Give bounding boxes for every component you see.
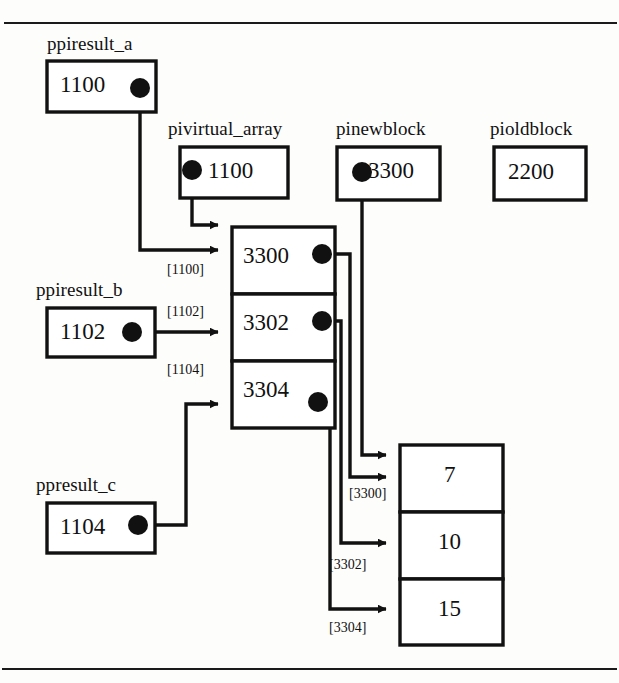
link-pinewblock-to-value0: [362, 172, 386, 455]
value-array-value-2: 15: [438, 596, 461, 622]
value-pinewblock: 3300: [368, 158, 414, 184]
dot-pivirtual_array: [182, 160, 202, 180]
dot-ppresult_c: [128, 515, 148, 535]
memory-pointer-diagram: ppiresult_a pivirtual_array pinewblock p…: [0, 0, 619, 683]
value-pioldblock: 2200: [508, 159, 554, 185]
pointer-array-address-0: [1100]: [167, 262, 204, 278]
value-ppresult_c: 1104: [60, 514, 105, 540]
pointer-array-value-2: 3304: [243, 377, 289, 403]
link-cell2-to-value2: [318, 402, 386, 609]
dot-ppiresult_b: [122, 322, 142, 342]
value-array-address-1: [3302]: [329, 557, 366, 573]
dot-pointer-array-cell-1: [312, 311, 332, 331]
pointer-array-address-2: [1104]: [167, 362, 204, 378]
dot-pointer-array-cell-0: [312, 244, 332, 264]
label-ppresult_c: ppresult_c: [36, 474, 116, 496]
value-pivirtual_array: 1100: [208, 158, 253, 184]
label-pivirtual_array: pivirtual_array: [168, 118, 282, 140]
pointer-array-value-1: 3302: [243, 310, 289, 336]
pointer-array-value-0: 3300: [243, 243, 289, 269]
pointer-array-address-1: [1102]: [167, 304, 204, 320]
label-ppiresult_b: ppiresult_b: [36, 279, 123, 301]
label-ppiresult_a: ppiresult_a: [47, 33, 133, 55]
value-array-value-1: 10: [438, 529, 461, 555]
dot-pointer-array-cell-2: [308, 392, 328, 412]
value-array-value-0: 7: [444, 462, 456, 488]
value-array-address-2: [3304]: [329, 620, 366, 636]
value-array-address-0: [3300]: [349, 486, 386, 502]
dot-ppiresult_a: [130, 78, 150, 98]
label-pioldblock: pioldblock: [490, 118, 572, 140]
label-pinewblock: pinewblock: [336, 118, 426, 140]
value-ppiresult_b: 1102: [60, 319, 105, 345]
value-ppiresult_a: 1100: [60, 72, 105, 98]
